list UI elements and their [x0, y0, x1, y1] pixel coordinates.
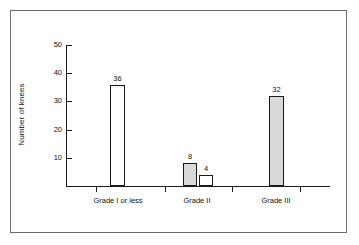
bar-grade-iii-32 [269, 96, 284, 186]
plot-area: 50 40 30 20 10 36 8 4 32 Grade I or less… [0, 0, 359, 245]
y-axis-title: Number of knees [17, 70, 26, 160]
bar-value-8: 8 [176, 152, 204, 161]
x-tick-2 [165, 187, 166, 192]
y-tick-20 [66, 130, 72, 131]
y-tick-label-30: 30 [40, 97, 62, 105]
figure: 50 40 30 20 10 36 8 4 32 Grade I or less… [0, 0, 359, 245]
y-tick-label-40: 40 [40, 69, 62, 77]
y-tick-label-10: 10 [40, 154, 62, 162]
y-tick-40 [66, 73, 72, 74]
bar-value-36: 36 [103, 74, 132, 83]
x-tick-1 [96, 187, 97, 192]
bar-value-32: 32 [262, 85, 291, 94]
x-label-grade-i-or-less: Grade I or less [78, 196, 158, 206]
y-tick-10 [66, 158, 72, 159]
y-axis-line [66, 45, 67, 187]
bar-grade-ii-4 [199, 175, 213, 186]
bar-value-4: 4 [192, 164, 220, 173]
x-label-grade-ii: Grade II [162, 196, 232, 206]
y-tick-label-50: 50 [40, 41, 62, 49]
x-label-grade-iii: Grade III [241, 196, 311, 206]
y-tick-50 [66, 45, 72, 46]
x-axis-line [66, 186, 330, 187]
y-tick-30 [66, 101, 72, 102]
bar-grade-i-or-less-36 [110, 85, 125, 186]
x-tick-4 [300, 187, 301, 192]
y-tick-label-20: 20 [40, 126, 62, 134]
x-tick-3 [232, 187, 233, 192]
